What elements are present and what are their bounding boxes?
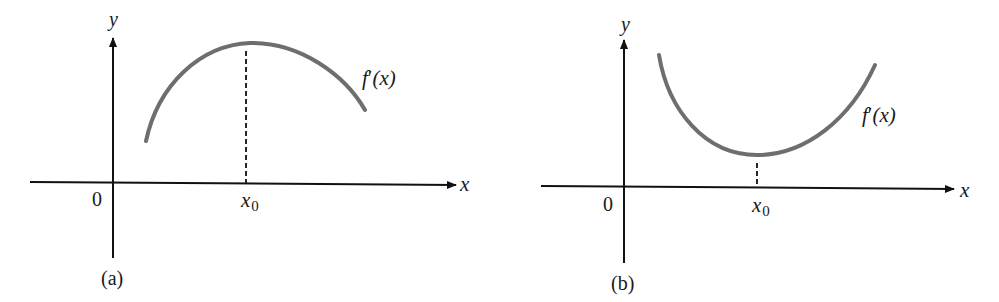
curve-label: f′(x) xyxy=(862,103,896,127)
panel-a: y x 0 x0 f′(x) (a) xyxy=(30,8,470,290)
figure: y x 0 x0 f′(x) (a) y x 0 x0 f′(x) (b) xyxy=(0,0,999,302)
x-axis xyxy=(541,186,954,189)
curve-label-arg: (x) xyxy=(872,103,895,127)
x0-label-base: x xyxy=(751,193,762,217)
x0-label-sub: 0 xyxy=(251,198,259,214)
x-axis xyxy=(30,182,456,185)
x-axis-label: x xyxy=(459,172,470,196)
x0-label: x0 xyxy=(240,188,259,214)
panel-caption-a: (a) xyxy=(101,267,123,290)
curve-f-prime xyxy=(659,55,875,155)
panel-caption-b: (b) xyxy=(611,272,634,295)
y-axis-label: y xyxy=(619,13,630,36)
panel-b: y x 0 x0 f′(x) (b) xyxy=(541,13,970,295)
curve-label-arg: (x) xyxy=(372,66,395,90)
origin-label: 0 xyxy=(92,188,102,210)
curve-label: f′(x) xyxy=(362,66,396,90)
origin-label: 0 xyxy=(603,193,613,215)
curve-f-prime xyxy=(146,43,365,141)
x-axis-label: x xyxy=(959,178,970,202)
x0-label-base: x xyxy=(240,188,251,212)
y-axis-label: y xyxy=(107,8,118,31)
x0-label-sub: 0 xyxy=(762,203,770,219)
x0-label: x0 xyxy=(751,193,770,219)
